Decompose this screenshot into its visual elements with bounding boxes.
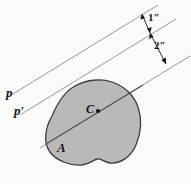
centroid-dot <box>96 109 100 113</box>
area-label: A <box>57 141 66 154</box>
centroid-label: C <box>86 103 94 115</box>
figure-graphics <box>0 0 191 184</box>
figure-caption <box>0 176 191 184</box>
dimension-label-1in: 1″ <box>148 12 160 23</box>
figure-canvas: p p′ C A 1″ 2″ <box>0 0 191 184</box>
axis-label-p-prime: p′ <box>14 104 24 117</box>
axis-label-p: p <box>6 86 13 99</box>
dimension-label-2in: 2″ <box>154 40 166 51</box>
